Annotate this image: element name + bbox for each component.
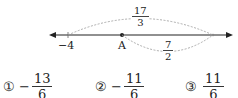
- top-arc-numerator: 17: [132, 6, 149, 17]
- option-1-marker: ①: [3, 79, 15, 94]
- option-3-denominator: 6: [209, 87, 217, 98]
- label-point-a: A: [118, 40, 126, 51]
- option-1-fraction: 13 6: [32, 72, 53, 98]
- option-3[interactable]: ③ 11 6: [185, 72, 224, 98]
- option-2-marker: ②: [95, 79, 107, 94]
- right-arrow-icon: [226, 32, 233, 38]
- option-2-sign: −: [111, 79, 122, 94]
- label-minus-4: −4: [58, 40, 74, 51]
- option-2-denominator: 6: [130, 87, 138, 98]
- top-arc-denominator: 3: [137, 17, 143, 28]
- bottom-arc-label: 7 2: [163, 40, 173, 62]
- option-3-fraction: 11 6: [203, 72, 224, 98]
- option-1[interactable]: ① − 13 6: [3, 72, 52, 98]
- bottom-arc-denominator: 2: [165, 51, 171, 62]
- option-2-numerator: 11: [124, 72, 145, 87]
- bottom-arc-numerator: 7: [163, 40, 173, 51]
- option-2[interactable]: ② − 11 6: [95, 72, 144, 98]
- option-1-numerator: 13: [32, 72, 53, 87]
- top-arc-label: 17 3: [132, 6, 149, 28]
- option-1-denominator: 6: [38, 87, 46, 98]
- option-3-numerator: 11: [203, 72, 224, 87]
- left-arrow-icon: [49, 32, 56, 38]
- option-1-sign: −: [19, 79, 30, 94]
- option-3-marker: ③: [185, 79, 197, 94]
- option-2-fraction: 11 6: [124, 72, 145, 98]
